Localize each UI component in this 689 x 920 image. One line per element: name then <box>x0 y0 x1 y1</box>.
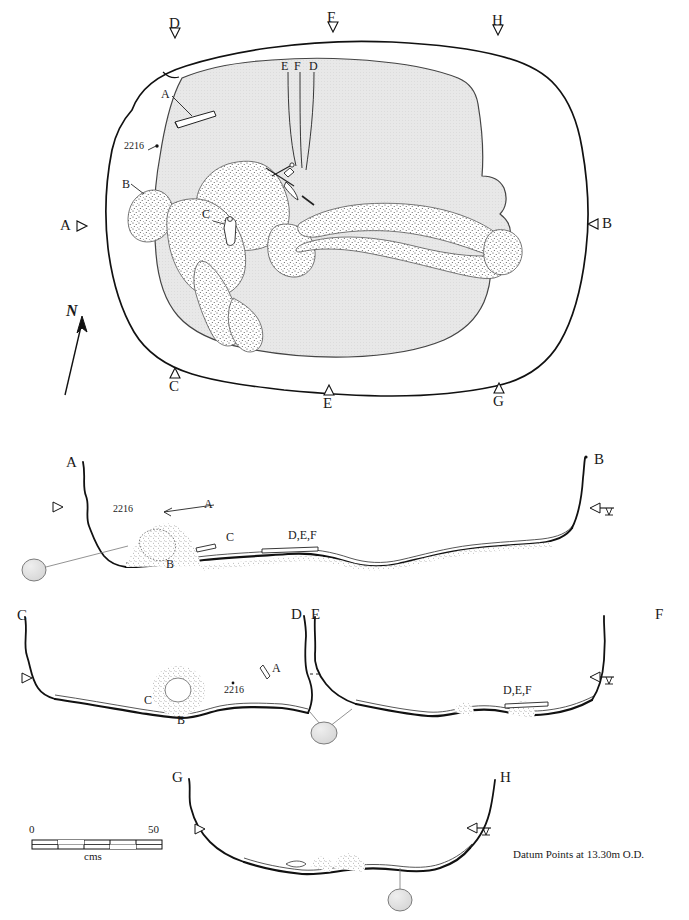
section-gh-label-G: G <box>172 770 183 785</box>
section-cd-context-2216: 2216 <box>224 685 244 695</box>
section-gh-right-edge <box>470 780 495 848</box>
section-cd-label-D: D <box>291 607 302 622</box>
section-cd-artefact-A <box>260 665 270 679</box>
section-ef-label-E: E <box>311 607 320 622</box>
section-ab-artefact-def <box>262 547 318 553</box>
section-ab-find-label-A: A <box>204 498 213 510</box>
section-ef-right-edge <box>592 616 605 700</box>
plan-leader-label-E: E <box>281 60 288 72</box>
section-ab-label-A: A <box>66 455 77 470</box>
section-cd-level-left <box>22 673 32 683</box>
north-arrow <box>65 316 87 395</box>
section-gh-level-left <box>195 824 205 834</box>
point-2216 <box>155 144 158 147</box>
north-label: N <box>66 303 78 319</box>
section-ef-find-label-DEF: D,E,F <box>503 684 532 696</box>
section-gh-label-H: H <box>500 770 511 785</box>
plan-leader-label-B: B <box>122 178 130 190</box>
plan-marker-label-B-right: B <box>602 216 612 231</box>
plan-marker-label-D-top: D <box>169 16 180 31</box>
section-cd-ef-datum <box>310 709 352 744</box>
plan-context-number-2216: 2216 <box>124 141 144 151</box>
plan-marker-label-F-top: F <box>327 10 335 25</box>
section-cd-find-label-B: B <box>177 714 185 726</box>
scale-bar-end-label: 50 <box>148 824 159 835</box>
section-ef-label-F: F <box>655 607 663 622</box>
plan-marker-label-G-bottom: G <box>493 394 504 409</box>
plan-leader-label-F: F <box>294 60 301 72</box>
section-gh-group <box>189 779 495 911</box>
section-gh-level-right <box>467 823 491 835</box>
section-ef-group <box>310 616 614 744</box>
section-ab-level-right <box>590 503 614 515</box>
section-cd-deposit-ring-inner <box>165 678 191 702</box>
section-cd-find-label-C: C <box>144 694 152 706</box>
scale-bar-graphic <box>32 840 162 849</box>
section-gh-stone-1 <box>286 861 306 867</box>
plan-view-group <box>65 22 598 396</box>
section-cd-find-label-A: A <box>272 662 281 674</box>
section-ab-find-label-B: B <box>166 558 174 570</box>
section-ab-context-2216: 2216 <box>113 504 133 514</box>
plan-marker-label-A-left: A <box>60 218 71 233</box>
section-gh-left-edge <box>189 779 244 862</box>
section-ab-artefact-A <box>196 544 216 552</box>
plan-leader-label-D: D <box>309 60 318 72</box>
section-cd-left-edge <box>25 617 55 699</box>
section-ef-base <box>356 700 592 716</box>
arrowhead-B-right <box>588 219 598 229</box>
section-gh-deposit-2 <box>334 853 365 872</box>
section-ab-left-edge <box>83 462 126 567</box>
section-ab-group <box>22 455 614 581</box>
plan-leader-label-C: C <box>202 208 210 220</box>
plan-marker-label-E-bottom: E <box>323 396 332 411</box>
section-ab-label-B: B <box>594 452 604 467</box>
scale-bar-start-label: 0 <box>29 824 35 835</box>
section-ef-left-edge <box>315 617 356 704</box>
scale-bar-unit-label: cms <box>84 851 102 862</box>
section-ab-find-label-DEF: D,E,F <box>288 529 317 541</box>
plan-marker-label-H-top: H <box>492 13 503 28</box>
section-cd-right-edge <box>304 616 312 713</box>
section-cd-group <box>22 616 312 718</box>
plan-leader-label-A: A <box>161 88 170 100</box>
plan-marker-label-C-bottom: C <box>169 379 179 394</box>
bone-right-terminal <box>484 230 523 275</box>
section-ef-artefact-def <box>505 702 548 708</box>
section-ab-right-edge <box>572 458 585 528</box>
section-cd-label-C: C <box>17 608 27 623</box>
section-gh-datum <box>388 868 412 911</box>
illustration-canvas <box>0 0 689 920</box>
drawing-sheet: D F H A B C E G E F D A B C 2216 N A B 2… <box>0 0 689 920</box>
section-ab-level-left <box>53 502 63 512</box>
arrowhead-A-left <box>77 221 87 231</box>
section-ab-find-label-C: C <box>226 531 234 543</box>
datum-note: Datum Points at 13.30m O.D. <box>513 849 644 860</box>
